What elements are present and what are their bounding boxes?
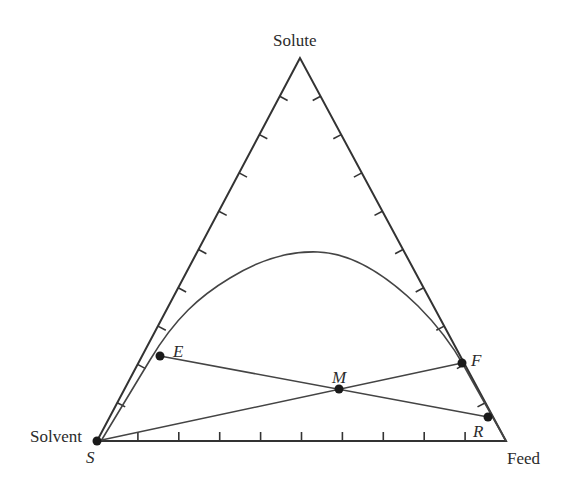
point-r bbox=[484, 413, 493, 422]
left-edge-ticks bbox=[117, 96, 287, 407]
vertex-label-solvent: Solvent bbox=[30, 428, 82, 445]
tie-line-e-r bbox=[160, 356, 488, 417]
vertex-label-feed: Feed bbox=[507, 450, 540, 467]
binodal-curve bbox=[101, 252, 506, 441]
point-label-s: S bbox=[86, 449, 95, 466]
bottom-edge-ticks bbox=[138, 432, 465, 441]
point-f bbox=[458, 359, 467, 368]
vertex-label-solute: Solute bbox=[273, 32, 316, 49]
point-s bbox=[93, 437, 102, 446]
point-label-m: M bbox=[332, 369, 346, 386]
point-label-f: F bbox=[471, 352, 481, 369]
ternary-triangle bbox=[97, 58, 506, 441]
point-e bbox=[156, 352, 165, 361]
point-label-r: R bbox=[473, 423, 483, 440]
ternary-diagram bbox=[0, 0, 572, 496]
point-label-e: E bbox=[173, 343, 183, 360]
